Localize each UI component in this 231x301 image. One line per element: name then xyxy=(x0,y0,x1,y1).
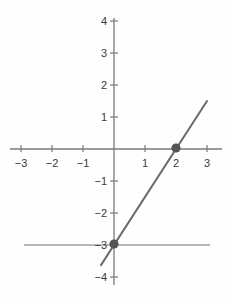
y-tick-label-2: 2 xyxy=(101,80,107,91)
y-tick-label--1: −1 xyxy=(94,176,107,187)
point-intersection xyxy=(109,239,118,248)
x-tick-label-3: 3 xyxy=(204,158,210,169)
y-tick-label--3: −3 xyxy=(94,240,107,251)
coordinate-plane-chart: −3 −2 −1 1 2 3 4 3 2 1 −1 −2 −3 −4 xyxy=(0,0,231,301)
x-tick-label-2: 2 xyxy=(173,158,179,169)
y-tick-label--4: −4 xyxy=(94,272,107,283)
y-tick-label-3: 3 xyxy=(101,48,107,59)
y-tick-label--2: −2 xyxy=(94,208,107,219)
y-tick-label-4: 4 xyxy=(101,16,107,27)
y-tick-label-1: 1 xyxy=(101,112,107,123)
x-tick-label-1: 1 xyxy=(142,158,148,169)
x-tick-label--2: −2 xyxy=(46,158,59,169)
x-tick-label--3: −3 xyxy=(15,158,28,169)
point-x-intercept xyxy=(171,143,180,152)
x-tick-label--1: −1 xyxy=(77,158,90,169)
chart-canvas xyxy=(0,0,231,301)
